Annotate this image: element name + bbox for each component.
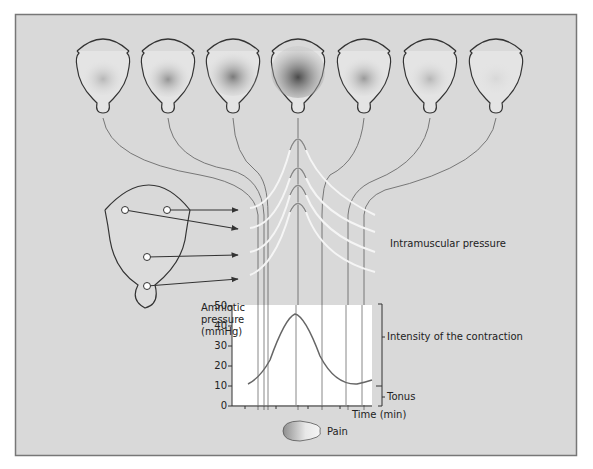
diagram-canvas xyxy=(0,0,593,469)
amniotic-pressure-chart xyxy=(228,304,385,409)
tonus-label: Tonus xyxy=(387,391,415,402)
y-tick-0: 0 xyxy=(205,400,227,411)
intramuscular-pressure-label: Intramuscular pressure xyxy=(390,238,506,249)
y-tick-20: 20 xyxy=(205,360,227,371)
y-tick-40: 40 xyxy=(205,320,227,331)
time-axis-label: Time (min) xyxy=(352,409,406,420)
pain-icon xyxy=(283,421,321,441)
sensor-4 xyxy=(144,283,151,290)
pain-label: Pain xyxy=(327,426,348,437)
y-tick-10: 10 xyxy=(205,380,227,391)
sensor-3 xyxy=(144,254,151,261)
sensor-2 xyxy=(164,207,171,214)
sensor-1 xyxy=(122,207,129,214)
y-tick-30: 30 xyxy=(205,340,227,351)
intensity-label: Intensity of the contraction xyxy=(387,331,523,342)
y-tick-50: 50 xyxy=(205,300,227,311)
